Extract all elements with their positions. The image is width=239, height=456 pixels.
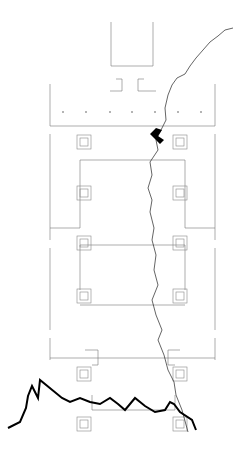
- piers: [77, 135, 187, 431]
- nave-outline: [50, 160, 215, 358]
- floor-plan: [0, 0, 239, 456]
- column-dots-top: [62, 111, 202, 113]
- top-hall: [50, 84, 215, 126]
- crack-line: [148, 28, 233, 432]
- apse-outline: [111, 22, 153, 66]
- entrance-bracket-right: [138, 79, 156, 91]
- crack-blob: [150, 128, 164, 144]
- entrance-bracket-left: [110, 79, 122, 91]
- crack-line-heavy: [8, 380, 196, 430]
